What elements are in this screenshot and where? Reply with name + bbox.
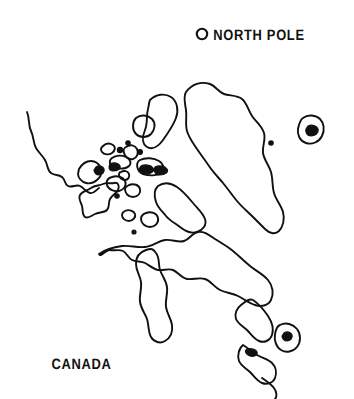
islet-filled-west <box>94 166 104 175</box>
settlement-dot-greenland <box>268 140 274 146</box>
canada-label: CANADA <box>52 356 112 373</box>
islet-filled-iceland <box>306 125 318 136</box>
islet-dot-5 <box>132 230 136 234</box>
islet-dot-4 <box>115 194 119 198</box>
islet-filled-newfoundland <box>282 332 292 341</box>
islet-filled-gulf <box>246 349 258 357</box>
arctic-map-figure: NORTH POLE CANADA <box>0 0 354 399</box>
islet-filled-melville <box>109 163 120 171</box>
north-pole-label: NORTH POLE <box>213 27 304 44</box>
islet-filled-central <box>139 165 154 174</box>
islet-dot-1 <box>117 147 122 152</box>
islet-dot-2 <box>126 141 130 145</box>
islet-filled-north <box>154 166 167 175</box>
islet-dot-3 <box>138 150 143 155</box>
map-canvas: NORTH POLE CANADA <box>0 0 354 399</box>
